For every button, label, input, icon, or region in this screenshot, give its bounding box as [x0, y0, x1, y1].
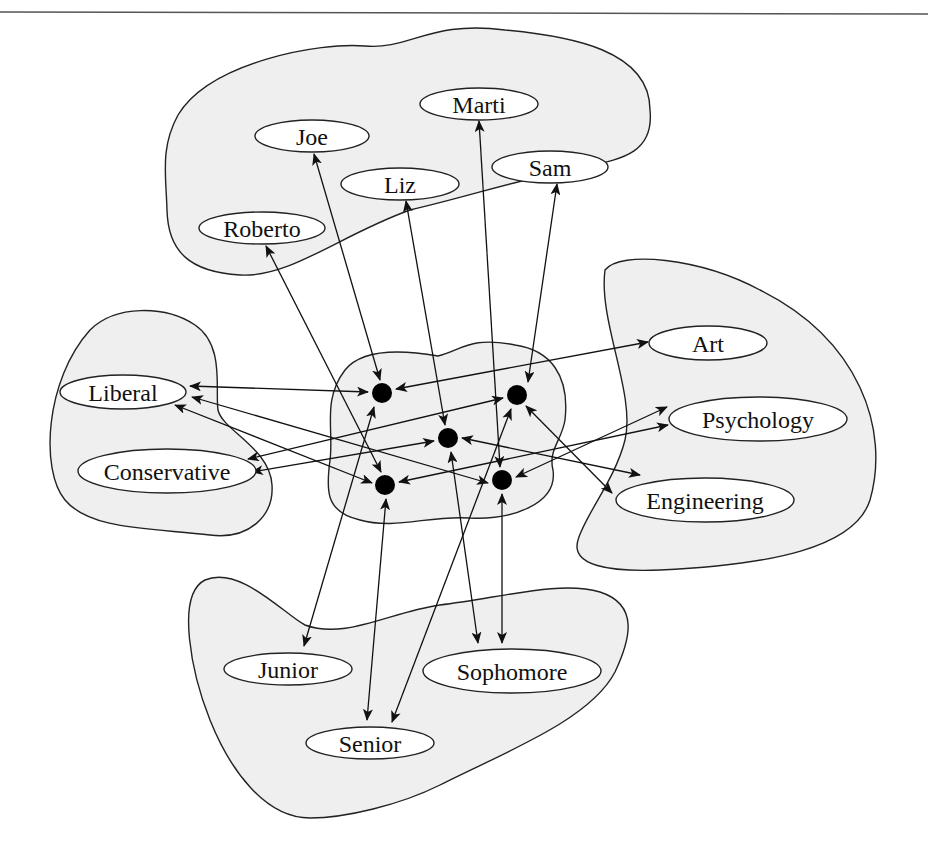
- point-D: [375, 475, 395, 495]
- node-label: Joe: [296, 124, 328, 150]
- region-years: [189, 577, 629, 818]
- diagram-canvas: JoeMartiLizSamRobertoLiberalConservative…: [0, 0, 942, 866]
- node-label: Roberto: [223, 216, 300, 242]
- node-senior: Senior: [306, 727, 434, 759]
- node-joe: Joe: [255, 120, 369, 152]
- node-label: Liberal: [88, 380, 158, 406]
- point-C: [438, 428, 458, 448]
- node-sophomore: Sophomore: [423, 649, 601, 693]
- edge-B-sam: [528, 184, 557, 382]
- point-E: [492, 470, 512, 490]
- node-engineering: Engineering: [616, 478, 794, 522]
- node-art: Art: [649, 326, 767, 360]
- point-B: [507, 385, 527, 405]
- node-label: Sam: [529, 155, 572, 181]
- node-label: Sophomore: [457, 659, 568, 685]
- node-label: Junior: [258, 657, 318, 683]
- node-conservative: Conservative: [78, 449, 256, 493]
- node-junior: Junior: [224, 653, 352, 685]
- node-liberal: Liberal: [60, 375, 186, 409]
- node-roberto: Roberto: [199, 212, 325, 244]
- node-marti: Marti: [420, 88, 538, 120]
- region-politics: [50, 311, 272, 536]
- node-label: Conservative: [104, 459, 231, 485]
- node-sam: Sam: [492, 151, 608, 183]
- node-label: Marti: [452, 92, 506, 118]
- node-label: Senior: [339, 731, 402, 757]
- node-label: Liz: [384, 172, 416, 198]
- point-A: [372, 383, 392, 403]
- node-psychology: Psychology: [669, 397, 847, 441]
- node-label: Art: [692, 331, 724, 357]
- node-label: Engineering: [646, 488, 763, 514]
- node-liz: Liz: [341, 168, 459, 200]
- node-label: Psychology: [702, 407, 814, 433]
- top-rule: [0, 12, 928, 14]
